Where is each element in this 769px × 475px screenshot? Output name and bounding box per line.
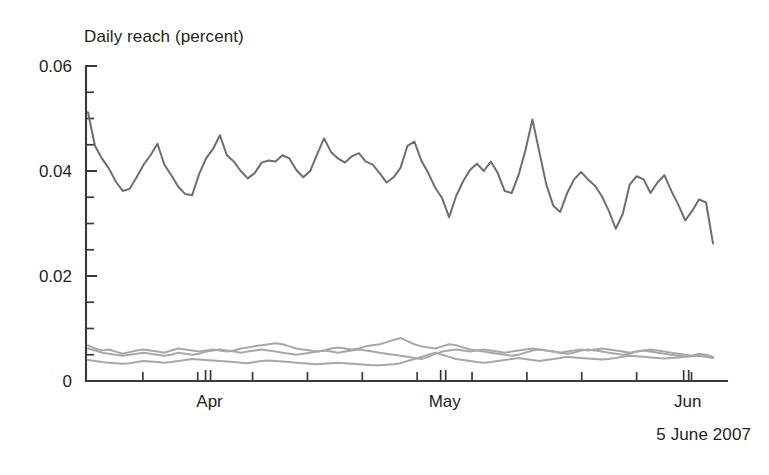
series-line-main (88, 112, 713, 243)
y-tick-label: 0.02 (39, 267, 72, 286)
x-axis-labels: AprMayJun (196, 392, 701, 411)
data-series-group (88, 112, 713, 365)
x-tick-label: Apr (196, 392, 223, 411)
y-tick-label: 0.06 (39, 57, 72, 76)
x-axis-ticks (143, 370, 692, 381)
x-tick-label: Jun (674, 392, 701, 411)
y-axis-ticks (86, 66, 97, 355)
chart-page: Daily reach (percent) 00.020.040.06 AprM… (0, 0, 769, 475)
y-tick-label: 0 (63, 372, 72, 391)
date-caption: 5 June 2007 (0, 425, 751, 445)
x-tick-label: May (429, 392, 462, 411)
y-axis-labels: 00.020.040.06 (39, 57, 72, 391)
y-tick-label: 0.04 (39, 162, 72, 181)
line-chart: 00.020.040.06 AprMayJun (0, 0, 769, 475)
